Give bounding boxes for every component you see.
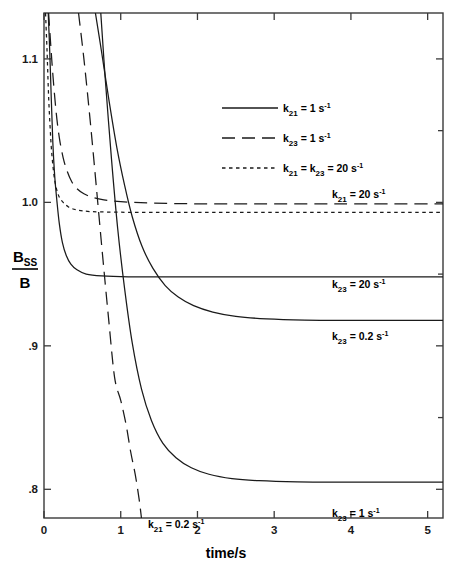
y-tick-label: .8: [28, 483, 38, 495]
x-tick-label: 0: [41, 524, 47, 536]
x-axis-title: time/s: [206, 545, 247, 561]
y-tick-label: 1.1: [22, 53, 39, 65]
y-axis-denominator: B: [20, 274, 31, 291]
y-tick-label: .9: [28, 340, 38, 352]
chart-canvas: 012345 1.11.0.9.8 k21 = 20 s-1k23 = 20 s…: [0, 0, 452, 564]
x-tick-label: 4: [348, 524, 355, 536]
x-tick-label: 5: [424, 524, 431, 536]
chart-figure: 012345 1.11.0.9.8 k21 = 20 s-1k23 = 20 s…: [0, 0, 452, 564]
x-tick-label: 3: [271, 524, 277, 536]
x-tick-label: 1: [118, 524, 125, 536]
y-tick-label: 1.0: [22, 196, 38, 208]
